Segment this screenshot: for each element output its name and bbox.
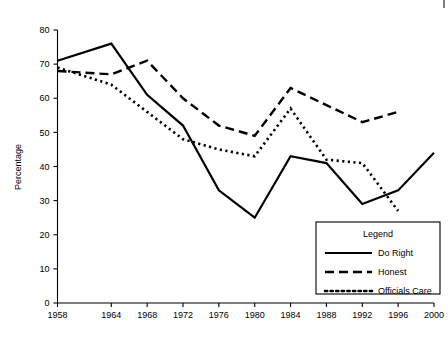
- x-tick-label: 1958: [47, 310, 67, 320]
- x-tick-label: 1980: [245, 310, 265, 320]
- y-tick-label-group: 01020304050607080: [39, 25, 49, 308]
- y-axis-title: Percentage: [13, 144, 23, 190]
- legend-label-honest: Honest: [378, 267, 407, 277]
- x-tick-label: 2000: [424, 310, 444, 320]
- y-tick-label: 70: [39, 59, 49, 69]
- legend-title: Legend: [363, 229, 393, 239]
- x-tick-label: 1964: [101, 310, 121, 320]
- x-tick-label: 1988: [316, 310, 336, 320]
- y-tick-label: 0: [44, 298, 49, 308]
- x-tick-label: 1992: [352, 310, 372, 320]
- x-tick-label: 1976: [209, 310, 229, 320]
- line-chart: 01020304050607080 Percentage 19581964196…: [0, 0, 448, 339]
- y-tick-label: 60: [39, 93, 49, 103]
- x-tick-label: 1968: [137, 310, 157, 320]
- x-tick-label: 1972: [173, 310, 193, 320]
- x-tick-label: 1996: [388, 310, 408, 320]
- x-tick-label: 1984: [281, 310, 301, 320]
- y-tick-label: 50: [39, 128, 49, 138]
- legend: Legend Do RightHonestOfficials Care: [316, 222, 440, 296]
- y-tick-label: 10: [39, 264, 49, 274]
- y-tick-label: 80: [39, 25, 49, 35]
- y-tick-label: 40: [39, 162, 49, 172]
- y-tick-label: 30: [39, 196, 49, 206]
- legend-label-do-right: Do Right: [378, 248, 414, 258]
- chart-svg: 01020304050607080 Percentage 19581964196…: [0, 0, 448, 339]
- y-tick-label: 20: [39, 230, 49, 240]
- legend-label-officials-care: Officials Care: [378, 286, 432, 296]
